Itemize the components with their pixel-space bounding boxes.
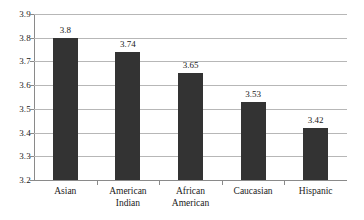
x-axis-category-label-line: Hispanic xyxy=(299,186,333,196)
bar-value-label: 3.8 xyxy=(42,26,88,35)
x-axis-category-label-line: American xyxy=(109,186,146,196)
x-axis-tick-mark xyxy=(97,181,98,185)
y-axis: 3.93.83.73.63.53.43.33.2 xyxy=(0,0,31,220)
bar-chart: 3.93.83.73.63.53.43.33.2 3.8Asian3.74Ame… xyxy=(0,0,364,220)
y-axis-tick-label: 3.2 xyxy=(3,176,31,185)
y-axis-tick-label: 3.5 xyxy=(3,105,31,114)
bar-value-label: 3.74 xyxy=(105,40,151,49)
x-axis-tick-mark xyxy=(159,181,160,185)
bar[interactable] xyxy=(241,102,266,180)
plot-area xyxy=(34,14,347,180)
x-axis-tick-mark xyxy=(284,181,285,185)
bar[interactable] xyxy=(178,73,203,180)
bar-value-label: 3.65 xyxy=(168,61,214,70)
bar[interactable] xyxy=(303,128,328,180)
x-axis-category-label: AmericanIndian xyxy=(97,186,159,209)
bar[interactable] xyxy=(53,38,78,180)
gridline xyxy=(34,14,347,15)
bar[interactable] xyxy=(115,52,140,180)
bar-value-label: 3.42 xyxy=(293,116,339,125)
x-axis-category-label: Asian xyxy=(34,186,96,198)
x-axis-category-label-line: Asian xyxy=(54,186,76,196)
x-axis-category-label-line: Caucasian xyxy=(234,186,273,196)
y-axis-tick-label: 3.4 xyxy=(3,129,31,138)
gridline xyxy=(34,180,347,181)
x-axis-category-label: AfricanAmerican xyxy=(160,186,222,209)
x-axis-category-label-line: American xyxy=(160,198,222,210)
x-axis-category-label: Hispanic xyxy=(285,186,347,198)
y-axis-tick-label: 3.8 xyxy=(3,34,31,43)
x-axis-category-label-line: Indian xyxy=(97,198,159,210)
x-axis-tick-mark xyxy=(222,181,223,185)
y-axis-tick-label: 3.7 xyxy=(3,57,31,66)
bar-value-label: 3.53 xyxy=(230,90,276,99)
y-axis-tick-label: 3.3 xyxy=(3,152,31,161)
x-axis-category-label-line: African xyxy=(176,186,205,196)
y-axis-tick-label: 3.9 xyxy=(3,10,31,19)
gridline xyxy=(34,38,347,39)
y-axis-tick-label: 3.6 xyxy=(3,81,31,90)
x-axis-category-label: Caucasian xyxy=(222,186,284,198)
